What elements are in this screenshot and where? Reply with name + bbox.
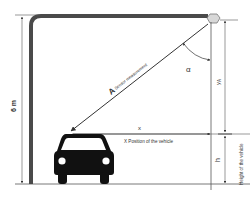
sensor-geometry-diagram: 6 m yA A Sensor measurement α x X Positi… xyxy=(0,0,250,199)
pole-height-label: 6 m xyxy=(10,100,17,112)
car-headlight-right xyxy=(102,157,109,164)
sensor-icon xyxy=(207,14,220,23)
sensor-measurement-vector xyxy=(71,24,208,131)
car-windshield xyxy=(61,138,106,150)
vector-a-label: A Sensor measurement xyxy=(107,60,150,97)
angle-alpha-arc xyxy=(183,43,210,60)
svg-text:Sensor measurement: Sensor measurement xyxy=(113,62,148,91)
x-caption: X Position of the vehicle xyxy=(124,139,173,144)
angle-alpha-label: α xyxy=(186,65,191,74)
ya-label: yA xyxy=(215,79,222,85)
x-symbol: x xyxy=(138,125,141,131)
car-headlight-left xyxy=(58,157,65,164)
h-symbol: h xyxy=(214,158,221,162)
h-caption: Height of the vehicle xyxy=(239,143,244,185)
svg-text:yA: yA xyxy=(215,79,222,85)
